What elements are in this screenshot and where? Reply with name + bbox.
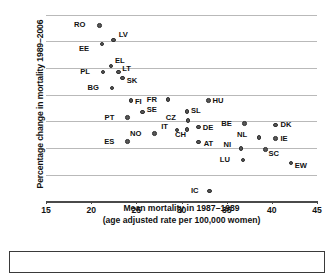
data-point-label-ie: IE [280, 135, 287, 143]
data-point-label-be: BE [221, 120, 232, 128]
data-point-sl[interactable] [185, 109, 190, 114]
data-point-es[interactable] [125, 139, 130, 144]
data-point-label-ro: RO [74, 21, 85, 29]
data-point-sk[interactable] [120, 76, 125, 81]
caption-box [9, 251, 325, 273]
data-point-label-es: ES [104, 138, 114, 146]
y-axis-title: Percentage change in mortality 1989–2006 [35, 4, 45, 204]
data-point-label-se: SE [147, 106, 157, 114]
data-point-hu[interactable] [206, 98, 211, 103]
data-point-label-ee: EE [79, 45, 89, 53]
data-point-lt[interactable] [116, 70, 121, 75]
data-point-label-pl: PL [80, 68, 90, 76]
data-point-label-hu: HU [213, 97, 224, 105]
data-point-de[interactable] [196, 125, 201, 130]
x-axis-title-line1: Mean mortality in 1987–1989 [46, 203, 317, 215]
data-point-sc[interactable] [263, 147, 268, 152]
data-point-label-dk: DK [280, 121, 291, 129]
data-point-label-fr: FR [147, 96, 157, 104]
data-point-lu[interactable] [241, 158, 246, 163]
data-point-be[interactable] [242, 121, 247, 126]
y-gridline [46, 95, 317, 96]
data-point-pl[interactable] [101, 70, 106, 75]
y-gridline [46, 41, 317, 42]
data-point-no[interactable] [152, 131, 157, 136]
data-point-label-lv: LV [119, 31, 128, 39]
plot-area: 20100−10−20−30−40−5015202530354045ROLVEE… [46, 15, 317, 202]
data-point-label-de: DE [203, 124, 214, 132]
data-point-label-pt: PT [105, 114, 115, 122]
data-point-label-ic: IC [191, 187, 199, 195]
data-point-at[interactable] [196, 140, 201, 145]
y-gridline [46, 15, 317, 16]
data-point-ic[interactable] [207, 189, 212, 194]
data-point-ie[interactable] [273, 136, 278, 141]
data-point-label-ew: EW [295, 162, 307, 170]
data-point-label-sc: SC [269, 150, 280, 158]
data-point-pt[interactable] [125, 115, 130, 120]
data-point-label-no: NO [130, 130, 141, 138]
data-point-fr[interactable] [166, 97, 171, 102]
data-point-ro[interactable] [97, 23, 102, 28]
data-point-label-at: AT [204, 140, 214, 148]
data-point-dk[interactable] [273, 123, 278, 128]
data-point-label-nl: NL [237, 131, 247, 139]
data-point-label-ni: NI [224, 141, 232, 149]
x-axis-title: Mean mortality in 1987–1989 (age adjuste… [46, 203, 317, 226]
data-point-fi[interactable] [129, 98, 134, 103]
data-point-label-fi: FI [135, 98, 142, 106]
data-point-ew[interactable] [289, 161, 294, 166]
data-point-label-it: IT [161, 123, 168, 131]
data-point-se[interactable] [140, 110, 145, 115]
data-point-bg[interactable] [110, 86, 115, 91]
y-gridline [46, 175, 317, 176]
data-point-ni[interactable] [239, 146, 244, 151]
data-point-label-lu: LU [220, 156, 230, 164]
data-point-nl[interactable] [257, 135, 262, 140]
data-point-label-bg: BG [88, 84, 99, 92]
data-point-label-sl: SL [191, 107, 201, 115]
x-axis-title-line2: (age adjusted rate per 100,000 women) [46, 215, 317, 227]
data-point-label-sk: SK [127, 77, 138, 85]
data-point-cz[interactable] [186, 118, 191, 123]
data-point-label-lt: LT [122, 65, 131, 73]
data-point-ee[interactable] [100, 42, 105, 47]
